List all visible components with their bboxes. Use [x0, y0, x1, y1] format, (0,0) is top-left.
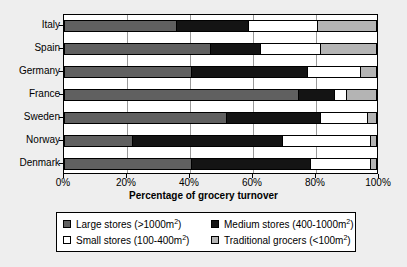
y-axis-label-france: France	[0, 88, 60, 100]
bar-row	[64, 20, 377, 32]
x-axis-tick-label: 80%	[305, 177, 325, 188]
bar-segment	[368, 112, 377, 124]
legend-swatch-icon	[211, 236, 219, 244]
legend-item[interactable]: Small stores (100-400m2)	[63, 235, 211, 246]
bar-row	[64, 135, 377, 147]
bar-segment	[192, 66, 308, 78]
bar-segment	[64, 158, 192, 170]
legend-label: Small stores (100-400m2)	[76, 235, 189, 246]
bar-segment	[64, 66, 192, 78]
bar-segment	[347, 89, 377, 101]
bar-segment	[211, 43, 261, 55]
y-axis-labels: ItalySpainGermanyFranceSwedenNorwayDenma…	[0, 14, 60, 174]
bar-segment	[64, 112, 227, 124]
bar-segment	[64, 135, 133, 147]
grocery-turnover-chart: ItalySpainGermanyFranceSwedenNorwayDenma…	[0, 0, 407, 267]
bar-row	[64, 158, 377, 170]
bar-row	[64, 66, 377, 78]
legend-item[interactable]: Large stores (>1000m2)	[63, 219, 211, 230]
bar-segment	[227, 112, 321, 124]
bar-row	[64, 112, 377, 124]
bar-segment	[318, 20, 377, 32]
x-axis-tick-label: 20%	[116, 177, 136, 188]
bar-segment	[321, 112, 368, 124]
legend-swatch-icon	[211, 220, 219, 228]
legend-label: Medium stores (400-1000m2)	[224, 219, 354, 230]
bar-segment	[299, 89, 335, 101]
x-axis-title: Percentage of grocery turnover	[0, 190, 407, 201]
legend-swatch-icon	[63, 220, 71, 228]
bar-segment	[64, 20, 177, 32]
y-axis-label-italy: Italy	[0, 19, 60, 31]
bar-rows	[64, 15, 377, 173]
bar-segment	[192, 158, 311, 170]
bar-segment	[64, 43, 211, 55]
x-axis-tick-labels: 0%20%40%60%80%100%	[0, 177, 407, 191]
y-axis-label-sweden: Sweden	[0, 111, 60, 123]
legend-label: Traditional grocers (<100m2)	[224, 235, 351, 246]
x-axis-tick-label: 60%	[242, 177, 262, 188]
legend-item[interactable]: Medium stores (400-1000m2)	[211, 219, 357, 230]
bar-segment	[371, 158, 377, 170]
y-axis-label-denmark: Denmark	[0, 157, 60, 169]
y-axis-label-spain: Spain	[0, 42, 60, 54]
bar-segment	[249, 20, 318, 32]
x-axis-tick-label: 0%	[56, 177, 70, 188]
legend-swatch-icon	[63, 236, 71, 244]
y-axis-label-norway: Norway	[0, 134, 60, 146]
bar-segment	[177, 20, 249, 32]
bar-segment	[321, 43, 377, 55]
x-axis-tick-label: 100%	[365, 177, 391, 188]
y-axis-label-germany: Germany	[0, 65, 60, 77]
bar-row	[64, 89, 377, 101]
bar-segment	[133, 135, 283, 147]
legend-label: Large stores (>1000m2)	[76, 219, 181, 230]
bar-segment	[64, 89, 299, 101]
bar-segment	[371, 135, 377, 147]
legend-item[interactable]: Traditional grocers (<100m2)	[211, 235, 357, 246]
bar-segment	[361, 66, 377, 78]
plot-area	[63, 14, 378, 174]
bar-segment	[283, 135, 371, 147]
bar-segment	[335, 89, 348, 101]
legend-grid: Large stores (>1000m2)Medium stores (400…	[63, 216, 349, 248]
bar-segment	[308, 66, 361, 78]
bar-row	[64, 43, 377, 55]
x-axis-tick-label: 40%	[179, 177, 199, 188]
legend: Large stores (>1000m2)Medium stores (400…	[56, 212, 356, 252]
bar-segment	[311, 158, 370, 170]
bar-segment	[261, 43, 320, 55]
